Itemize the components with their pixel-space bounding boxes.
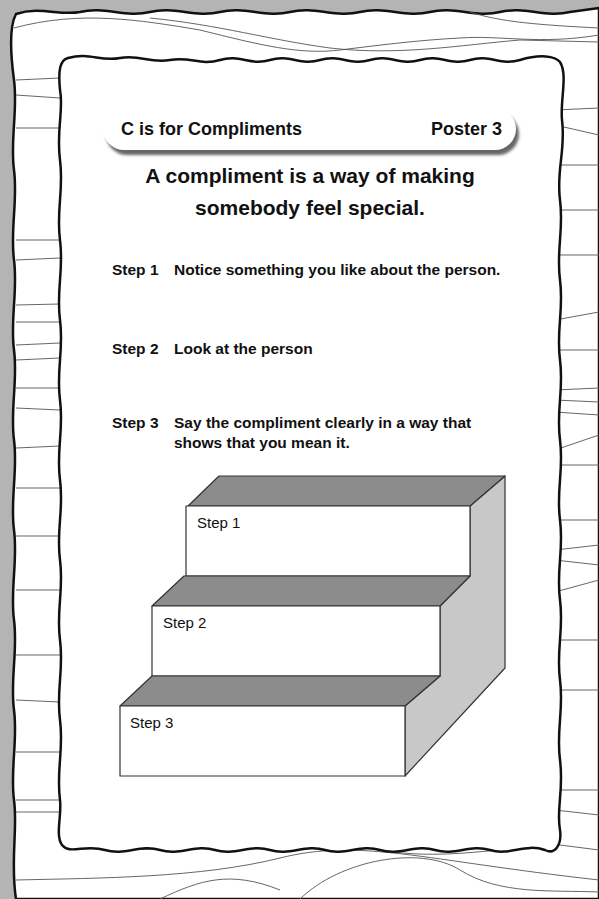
poster-number: Poster 3 [431, 119, 502, 140]
step-item-2: Step 2 Look at the person [112, 339, 514, 359]
staircase-label-1: Step 1 [197, 514, 240, 531]
step-number: Step 3 [112, 413, 174, 453]
poster-title: C is for Compliments [121, 119, 302, 140]
step-text: Notice something you like about the pers… [174, 260, 514, 280]
intro-statement: A compliment is a way of making somebody… [100, 160, 520, 224]
staircase-label-3: Step 3 [130, 714, 173, 731]
step-text: Look at the person [174, 339, 514, 359]
step-text: Say the compliment clearly in a way that… [174, 413, 514, 453]
step-number: Step 1 [112, 260, 174, 280]
step-item-3: Step 3 Say the compliment clearly in a w… [112, 413, 514, 453]
poster-header: C is for Compliments Poster 3 [103, 108, 516, 150]
step-item-1: Step 1 Notice something you like about t… [112, 260, 514, 280]
intro-line-1: A compliment is a way of making [100, 160, 520, 192]
intro-line-2: somebody feel special. [100, 192, 520, 224]
staircase-label-2: Step 2 [163, 614, 206, 631]
step-number: Step 2 [112, 339, 174, 359]
